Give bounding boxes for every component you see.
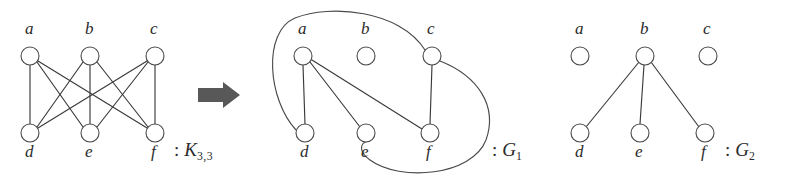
vertex-label-e: e [361,143,369,160]
graph-caption-k33: :K3,3 [174,140,213,159]
vertex-label-f: f [426,143,431,160]
transformation-arrow [198,82,240,108]
vertex-label-d: d [25,143,34,160]
graph-g2 [571,47,717,142]
vertex-b [636,47,654,65]
vertex-label-b: b [361,20,370,37]
caption-subscript: 1 [516,150,522,163]
vertex-label-d: d [300,143,309,160]
vertex-label-b: b [640,20,649,37]
graph-caption-g2: :G2 [725,140,755,159]
vertex-e [81,124,99,142]
vertex-a [21,47,39,65]
edge-a-e [310,62,360,127]
vertex-label-d: d [575,143,584,160]
vertex-label-f: f [151,143,156,160]
figure-canvas [0,0,786,182]
edge-c-f [430,65,432,124]
edge-b-d [586,62,639,127]
vertex-label-a: a [575,20,584,37]
caption-name: G [502,139,516,160]
vertex-label-e: e [85,143,93,160]
vertex-d [571,124,589,142]
edge-b-f [651,62,699,127]
vertex-d [296,124,314,142]
caption-subscript: 2 [749,150,755,163]
vertex-f [696,124,714,142]
vertex-label-a: a [25,20,34,37]
vertex-f [421,124,439,142]
caption-subscript: 3,3 [197,150,213,163]
vertex-b [81,47,99,65]
arrow-right-icon [198,82,240,108]
graph-figure: a b c d e f :K3,3 a b c d e f :G1 a b c … [0,0,786,182]
vertex-d [21,124,39,142]
vertex-label-c: c [703,20,711,37]
vertex-a [571,47,589,65]
vertex-label-c: c [150,20,158,37]
vertex-label-b: b [85,20,94,37]
vertex-c [146,47,164,65]
caption-colon: : [492,139,497,160]
caption-name: K [184,139,197,160]
g2-vertices [571,47,717,142]
vertex-label-c: c [427,20,435,37]
caption-colon: : [174,139,179,160]
vertex-e [631,124,649,142]
edge-b-e [640,65,644,124]
edge-a-d [303,65,305,124]
caption-name: G [735,139,749,160]
g2-edges [586,62,699,127]
vertex-c [699,47,717,65]
vertex-label-f: f [701,143,706,160]
vertex-e [357,124,375,142]
vertex-label-e: e [635,143,643,160]
vertex-a [294,47,312,65]
edge-a-f [312,60,422,129]
graph-k33 [21,47,164,142]
vertex-f [146,124,164,142]
k33-edges [30,61,155,128]
vertex-label-a: a [298,20,307,37]
vertex-b [357,47,375,65]
vertex-c [423,47,441,65]
caption-colon: : [725,139,730,160]
graph-caption-g1: :G1 [492,140,522,159]
